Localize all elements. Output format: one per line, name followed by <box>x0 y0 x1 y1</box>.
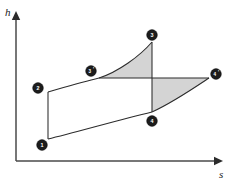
diagram-canvas: h s 123'344' <box>0 0 231 183</box>
marker-label-3: 3 <box>151 32 154 38</box>
process-condenser-line-1-4 <box>48 112 152 139</box>
state-point-marker-4[interactable]: 4 <box>147 116 158 127</box>
state-point-marker-1[interactable]: 1 <box>37 140 48 151</box>
marker-prime-3p: ' <box>93 67 94 72</box>
marker-label-1: 1 <box>41 142 44 148</box>
marker-label-3p: 3 <box>89 69 92 74</box>
shaded-regions-group <box>99 42 209 112</box>
enthalpy-axis-arrowhead <box>12 11 20 20</box>
marker-label-2: 2 <box>37 85 40 91</box>
enthalpy-axis-label: h <box>5 6 11 18</box>
marker-prime-4p: ' <box>218 70 219 75</box>
state-point-marker-2[interactable]: 2 <box>33 83 44 94</box>
state-point-marker-4p[interactable]: 4' <box>211 69 222 80</box>
marker-label-4: 4 <box>151 118 154 124</box>
process-heat-addition-2-3prime <box>48 78 99 92</box>
state-point-marker-3p[interactable]: 3' <box>86 66 97 77</box>
state-point-markers-group: 123'344' <box>33 30 222 151</box>
entropy-axis-label: s <box>219 168 223 180</box>
upper-loss-area <box>99 42 152 78</box>
h-s-diagram-figure: h s 123'344' <box>0 0 231 183</box>
state-point-marker-3[interactable]: 3 <box>147 30 158 41</box>
marker-label-4p: 4 <box>214 72 217 77</box>
entropy-axis-arrowhead <box>214 157 223 165</box>
